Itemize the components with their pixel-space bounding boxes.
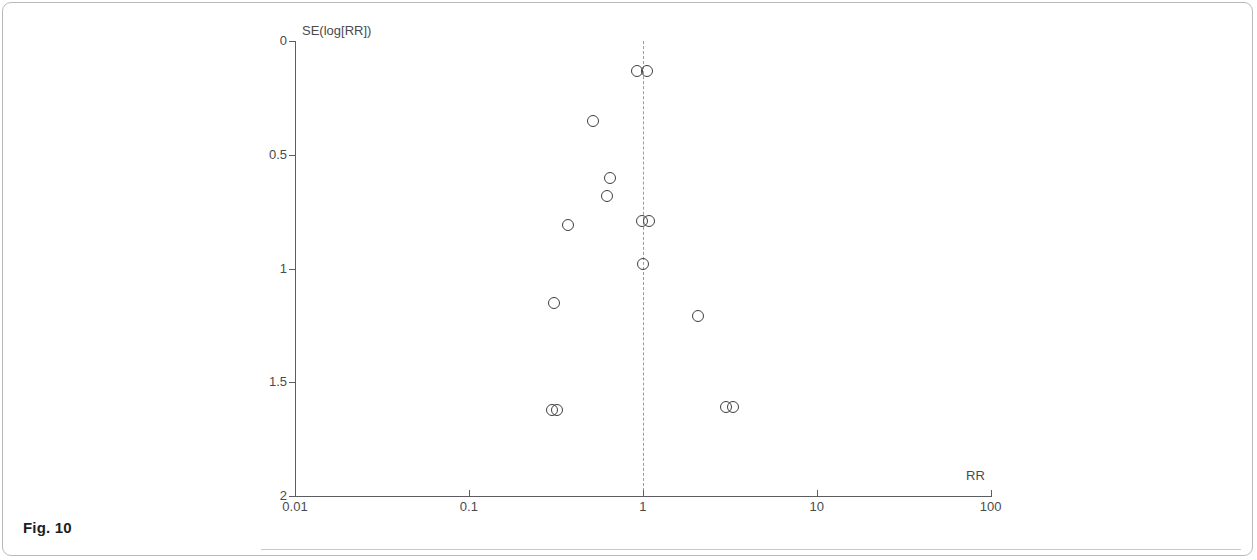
x-axis-title: RR <box>966 468 985 483</box>
x-tick-mark <box>817 490 818 497</box>
y-tick-label: 0.5 <box>225 147 287 162</box>
funnel-plot: SE(log[RR]) RR 00.511.52 0.010.1110100 <box>3 3 1254 513</box>
data-point <box>641 65 653 77</box>
data-point <box>643 215 655 227</box>
y-tick-mark <box>289 41 296 42</box>
y-tick-mark <box>289 155 296 156</box>
y-tick-label: 1 <box>225 261 287 276</box>
x-tick-mark <box>295 490 296 497</box>
data-point <box>587 115 599 127</box>
y-tick-mark <box>289 269 296 270</box>
x-tick-mark <box>643 490 644 497</box>
x-tick-label: 1 <box>603 499 683 514</box>
x-tick-label: 100 <box>951 499 1031 514</box>
data-point <box>637 258 649 270</box>
y-tick-mark <box>289 382 296 383</box>
data-point <box>562 219 574 231</box>
y-axis-title: SE(log[RR]) <box>302 23 371 38</box>
data-point <box>551 404 563 416</box>
y-tick-label: 1.5 <box>225 374 287 389</box>
figure-caption: Fig. 10 <box>23 519 72 536</box>
data-point <box>548 297 560 309</box>
data-point <box>727 401 739 413</box>
y-tick-label: 0 <box>225 33 287 48</box>
figure-card: SE(log[RR]) RR 00.511.52 0.010.1110100 F… <box>2 2 1253 556</box>
caption-separator <box>261 549 1241 550</box>
x-tick-label: 0.1 <box>429 499 509 514</box>
x-tick-label: 0.01 <box>255 499 335 514</box>
x-tick-mark <box>469 490 470 497</box>
data-point <box>604 172 616 184</box>
data-point <box>601 190 613 202</box>
x-tick-mark <box>991 490 992 497</box>
data-point <box>692 310 704 322</box>
x-tick-label: 10 <box>777 499 857 514</box>
